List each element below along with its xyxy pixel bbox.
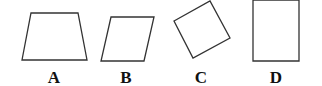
label-c: C (191, 68, 211, 86)
label-d: D (266, 68, 286, 86)
label-a: A (44, 68, 64, 86)
shape-a-trapezoid (22, 13, 87, 60)
label-b: B (116, 68, 136, 86)
shape-b-parallelogram (101, 17, 154, 61)
shape-d-rectangle (253, 0, 299, 61)
shape-c-rotated-square (174, 1, 230, 58)
